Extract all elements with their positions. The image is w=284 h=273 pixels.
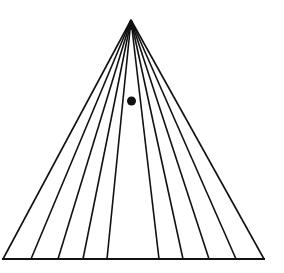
ray-line [83, 20, 131, 259]
ray-line [131, 20, 159, 259]
ray-line [3, 20, 131, 259]
ray-line [31, 20, 131, 259]
ray-line [58, 20, 131, 259]
illusion-figure [0, 0, 284, 273]
apex-wedge [126, 19, 136, 30]
ray-line [131, 20, 183, 259]
center-dot [127, 97, 136, 106]
ray-line [131, 20, 236, 259]
converging-rays [3, 19, 264, 259]
triangle-diagram [0, 0, 284, 273]
ray-line [107, 20, 131, 259]
